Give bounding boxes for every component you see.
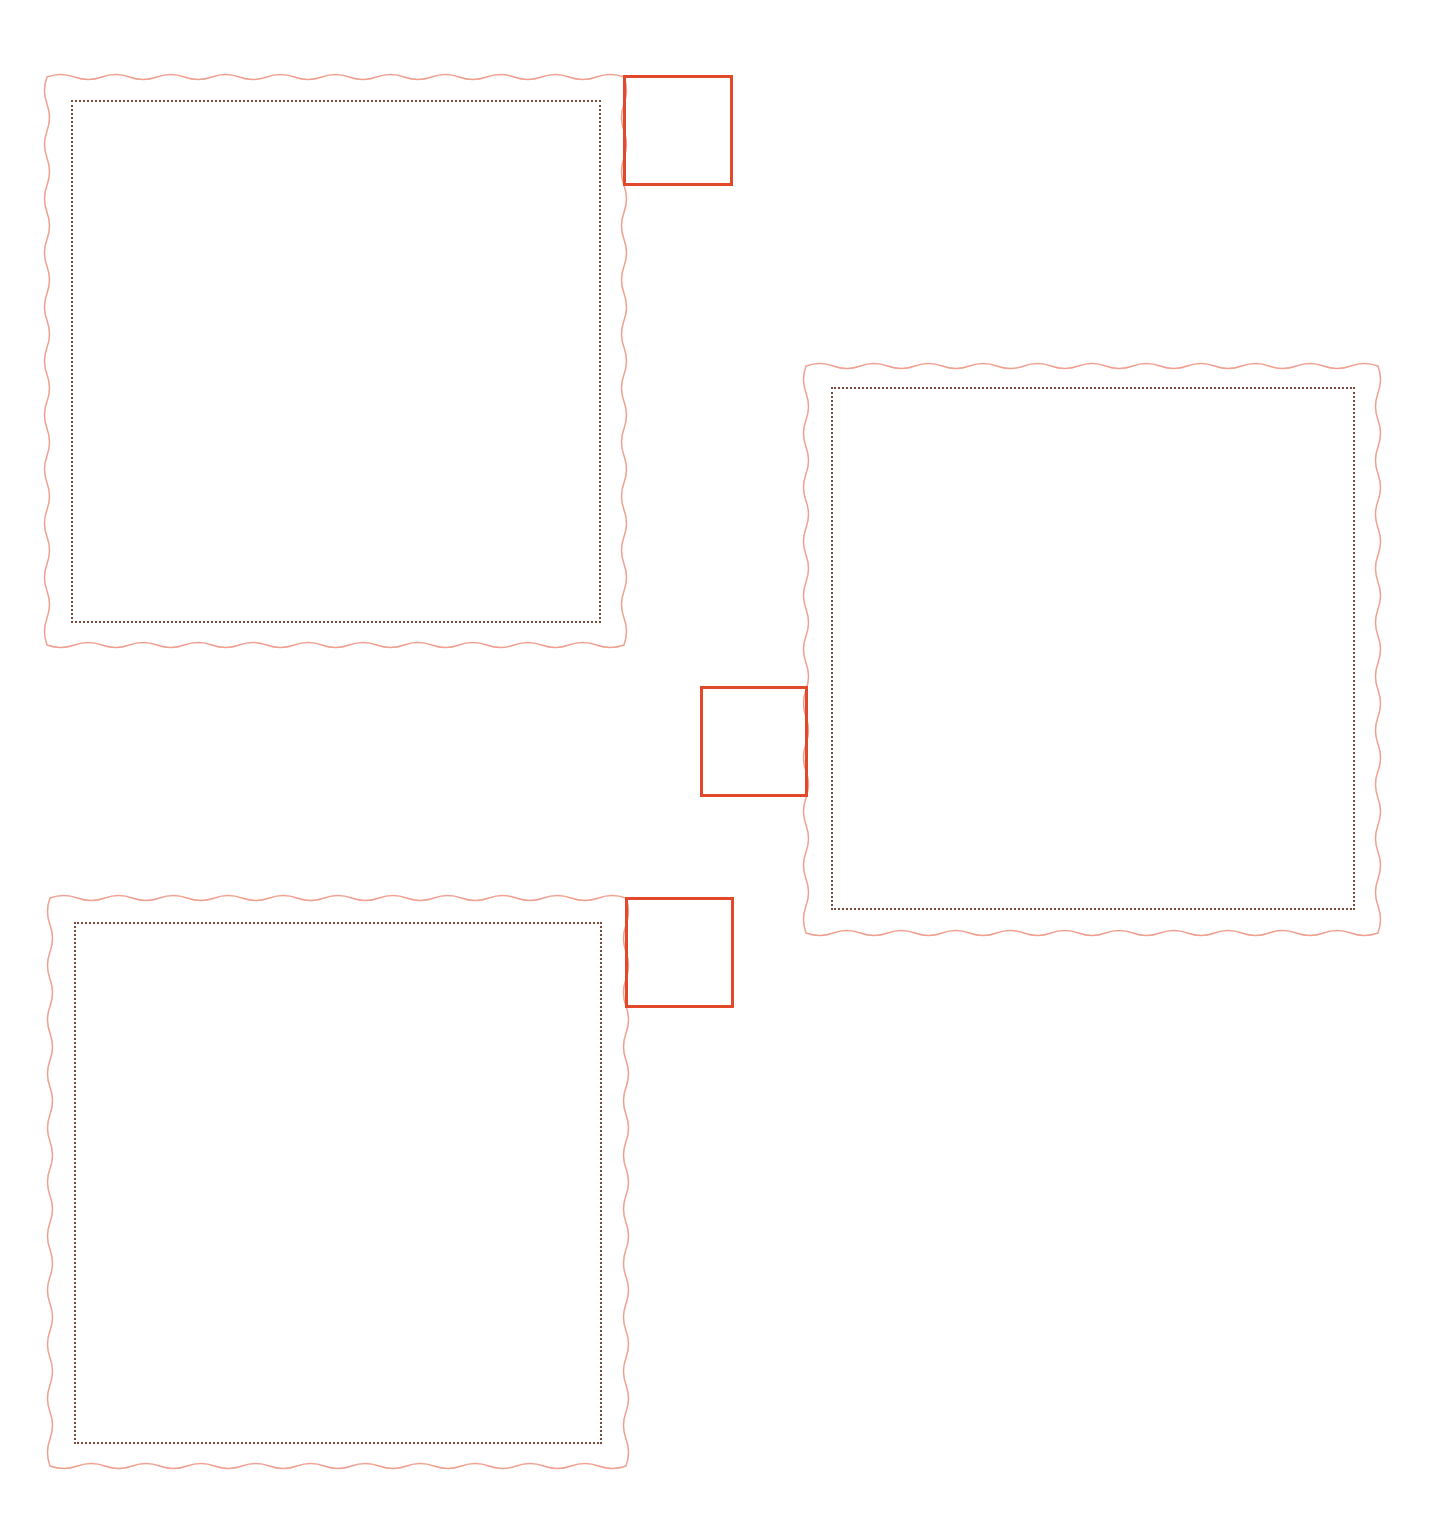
dotted-inner-border-bottom-left (74, 922, 602, 1444)
dotted-inner-border-top-left (71, 100, 601, 623)
tab-box-top-left (623, 75, 733, 186)
tab-box-right (700, 686, 808, 797)
tab-box-bottom-left (625, 897, 734, 1008)
dotted-inner-border-right (831, 387, 1355, 910)
